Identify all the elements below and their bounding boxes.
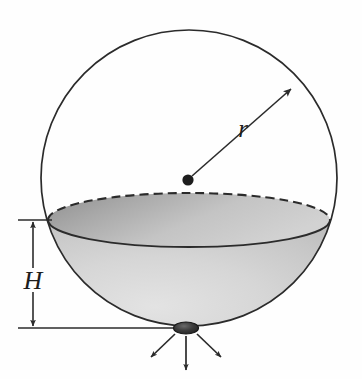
discharge-jet-arrows xyxy=(151,334,221,370)
figure-container: r H xyxy=(0,0,362,379)
center-point-dot xyxy=(182,174,193,185)
radius-label: r xyxy=(238,115,248,142)
height-label: H xyxy=(23,266,44,295)
hemispherical-tank-diagram: r H xyxy=(0,0,362,379)
orifice-ellipse xyxy=(174,322,199,334)
jet-arrow-left xyxy=(151,334,175,357)
jet-arrow-right xyxy=(197,334,221,357)
